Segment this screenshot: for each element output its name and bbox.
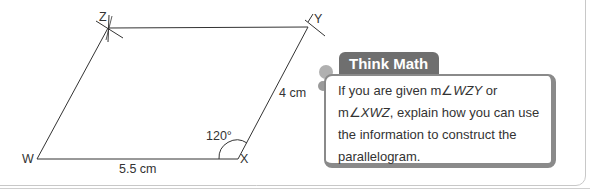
angle-x-measure: 120°	[206, 129, 232, 143]
vertex-z-label: Z	[99, 10, 107, 24]
think-math-box: If you are given m∠WZY or m∠XWZ, explain…	[324, 74, 556, 168]
vertex-y-label: Y	[314, 12, 322, 26]
think-math-line-2: m∠XWZ, explain how you can use	[338, 102, 541, 124]
think-math-line-4: parallelogram.	[338, 146, 541, 168]
vertex-x-label: X	[240, 152, 248, 166]
side-wx-length: 5.5 cm	[119, 162, 157, 176]
side-zy	[108, 27, 308, 28]
think-math-line-1: If you are given m∠WZY or	[338, 80, 541, 102]
side-xy-length: 4 cm	[279, 86, 306, 100]
vertex-w-label: W	[22, 152, 34, 166]
think-math-title: Think Math	[339, 52, 439, 76]
side-wz	[37, 28, 108, 159]
think-math-line-3: the information to construct the	[338, 124, 541, 146]
